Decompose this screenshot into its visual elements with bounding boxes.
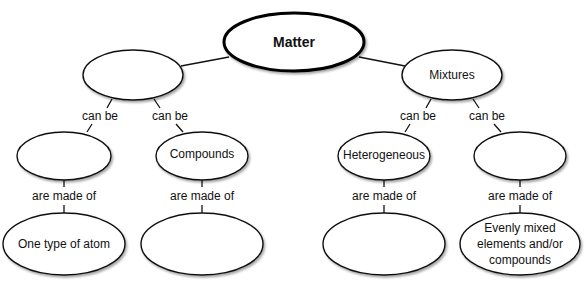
node-evenly-mixed: Evenly mixed elements and/or compounds (460, 213, 580, 275)
edge-canbe4-l3 (494, 124, 501, 132)
node-label-line-3: compounds (489, 253, 551, 267)
node-label: Heterogeneous (343, 148, 425, 162)
node-right-right-l3 (474, 132, 566, 180)
node-heterogeneous: Heterogeneous (338, 132, 430, 180)
edge-matter-left (181, 57, 229, 66)
link-label-can-be: can be (469, 109, 505, 123)
edge-left-canbe2 (154, 99, 160, 108)
edge-canbe2-l3 (176, 124, 183, 132)
link-label-can-be: can be (400, 109, 436, 123)
edge-mix-canbe1 (426, 99, 431, 108)
node-label: Compounds (170, 147, 235, 161)
edge-mix-canbe2 (473, 99, 479, 108)
concept-map: Matter Mixtures can be can be can be can… (0, 0, 586, 281)
edge-matter-mixtures (359, 57, 405, 66)
node-label-line-1: Evenly mixed (484, 221, 555, 235)
node-left-l2 (83, 50, 183, 100)
node-label: Mixtures (429, 68, 474, 82)
node-mixtures: Mixtures (402, 50, 502, 100)
node-heterogeneous-made-of (323, 213, 445, 275)
edge-canbe3-l3 (405, 124, 410, 132)
node-left-left-l3 (17, 132, 111, 180)
node-compounds: Compounds (156, 132, 248, 180)
link-label-can-be: can be (152, 109, 188, 123)
node-one-type-atom: One type of atom (3, 213, 125, 275)
link-label-are-made-of: are made of (488, 189, 553, 203)
node-label: One type of atom (18, 237, 110, 251)
link-label-are-made-of: are made of (352, 189, 417, 203)
link-label-can-be: can be (82, 109, 118, 123)
node-label-line-2: elements and/or (477, 237, 563, 251)
link-label-are-made-of: are made of (32, 189, 97, 203)
link-label-are-made-of: are made of (170, 189, 235, 203)
node-label: Matter (273, 34, 316, 50)
edge-canbe1-l3 (87, 124, 92, 132)
edge-left-canbe1 (107, 99, 112, 108)
node-matter: Matter (224, 13, 364, 71)
node-compounds-made-of (141, 213, 263, 275)
